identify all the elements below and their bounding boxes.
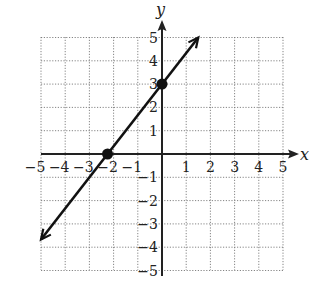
x-tick-label: −3	[73, 159, 94, 175]
x-tick-label: −5	[25, 159, 46, 175]
x-tick-label: 2	[206, 159, 215, 175]
x-tick-label: 3	[230, 159, 239, 175]
coordinate-plane: xy−5−4−3−2−11234554321−1−2−3−4−5	[0, 0, 310, 296]
graph-line	[41, 38, 198, 240]
x-intercept-point	[102, 149, 113, 160]
y-tick-label: −2	[137, 193, 158, 209]
y-tick-label: 5	[149, 30, 158, 46]
y-tick-label: 1	[149, 123, 158, 139]
y-tick-label: 2	[149, 99, 158, 115]
x-axis-label: x	[300, 145, 309, 164]
y-tick-label: −3	[137, 216, 158, 232]
x-tick-label: −4	[49, 159, 70, 175]
y-tick-label: 4	[149, 53, 158, 69]
y-tick-label: −1	[137, 169, 158, 185]
y-intercept-point	[157, 79, 168, 90]
y-axis-label: y	[155, 0, 166, 19]
x-tick-label: 4	[254, 159, 263, 175]
x-tick-label: 1	[182, 159, 191, 175]
y-tick-label: −4	[137, 239, 158, 255]
x-tick-label: 5	[279, 159, 288, 175]
y-tick-label: −5	[137, 263, 158, 279]
